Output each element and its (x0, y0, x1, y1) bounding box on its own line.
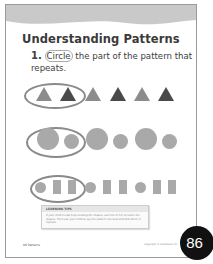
footer-page-label: 86 Patterns (23, 243, 40, 247)
question-number: 1. (31, 50, 42, 61)
triangle-icon (158, 87, 174, 101)
rectangle-icon (153, 180, 161, 194)
circle-icon (35, 182, 46, 193)
learning-tips-box: LEARNING TIPS If your child needs help l… (41, 205, 149, 229)
triangle-icon (85, 87, 101, 101)
rectangle-icon (53, 180, 61, 194)
tip-body: If your child needs help locating the sh… (42, 212, 148, 227)
small-circle-icon (64, 134, 79, 149)
page-number-badge: 86 (180, 226, 213, 260)
rectangle-icon (119, 180, 127, 194)
footer-copyright: Copyright © Scholastic Inc. (144, 243, 178, 246)
small-circle-icon (113, 134, 128, 149)
pattern-row-circle-rects (6, 175, 196, 205)
triangle-icon (134, 87, 150, 101)
pattern-row-circles (6, 125, 196, 155)
page-title: Understanding Patterns (22, 32, 180, 46)
rectangle-icon (68, 180, 76, 194)
banner-wave (6, 17, 196, 29)
question-text: 1. Circle the part of the pattern that r… (31, 50, 196, 74)
triangle-icon (60, 87, 76, 101)
rectangle-icon (168, 180, 176, 194)
circled-word: Circle (45, 50, 73, 62)
rectangle-icon (103, 180, 111, 194)
small-circle-icon (162, 134, 177, 149)
big-circle-icon (86, 128, 108, 150)
answer-ellipse (24, 83, 86, 109)
big-circle-icon (37, 128, 59, 150)
big-circle-icon (135, 128, 157, 150)
circle-icon (135, 182, 146, 193)
triangle-icon (110, 87, 126, 101)
pattern-row-triangles (6, 80, 196, 110)
triangle-icon (36, 87, 52, 101)
circle-icon (85, 182, 96, 193)
